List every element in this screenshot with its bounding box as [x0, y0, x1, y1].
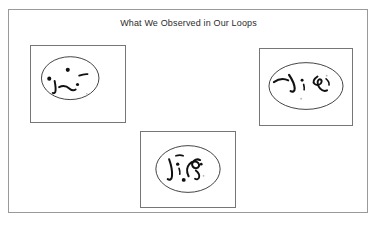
specimen-dot — [301, 79, 304, 82]
specimen-squiggle — [274, 79, 288, 82]
specimen-squiggle — [59, 86, 76, 90]
specimen-dot — [76, 83, 79, 86]
sample-panel-2 — [259, 48, 353, 126]
panel-1-drawing — [31, 46, 125, 122]
specimen-dot — [200, 163, 203, 166]
specimen-faint-speck — [203, 175, 205, 177]
panel-3-drawing — [141, 132, 235, 207]
specimen-squiggle — [326, 79, 329, 85]
specimen-squiggle — [314, 76, 327, 90]
specimen-dot — [47, 77, 51, 81]
panel-2-drawing — [260, 49, 352, 125]
sample-panel-3 — [140, 131, 236, 208]
specimen-dot — [182, 178, 186, 182]
specimen-squiggle — [304, 84, 305, 89]
sample-panel-1 — [30, 45, 126, 123]
specimen-faint-speck — [86, 93, 88, 95]
specimen-faint-speck — [300, 98, 302, 100]
specimen-squiggle — [179, 168, 180, 174]
specimen-squiggle — [168, 159, 172, 179]
specimen-squiggle — [79, 74, 87, 76]
figure-title: What We Observed in Our Loops — [0, 17, 377, 29]
figure-root: What We Observed in Our Loops — [0, 0, 377, 225]
specimen-squiggle — [195, 171, 199, 180]
specimen-squiggle — [53, 81, 56, 93]
specimen-dot — [176, 162, 179, 165]
specimen-squiggle — [289, 75, 295, 92]
loop-outline-2 — [269, 63, 343, 110]
specimen-squiggle — [176, 155, 183, 156]
specimen-faint-speck — [326, 75, 328, 77]
specimen-dot — [66, 68, 70, 72]
